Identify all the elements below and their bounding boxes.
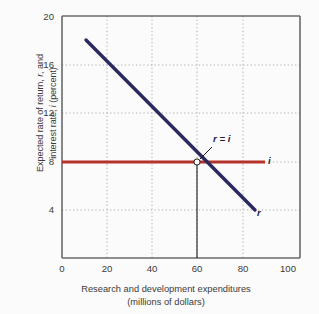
equilibrium-label: r = i <box>213 133 230 144</box>
x-axis-title: Research and development expenditures (m… <box>26 283 306 309</box>
equilibrium-marker <box>194 159 200 165</box>
equilibrium-leader-line <box>200 147 212 159</box>
curve-label-r: r <box>257 207 261 218</box>
x-axis-title-line2: (millions of dollars) <box>26 296 306 309</box>
plot-area <box>0 0 319 314</box>
chart-figure: Expected rate of return, r, and interest… <box>0 0 319 314</box>
curve-label-i: i <box>268 155 271 166</box>
x-axis-title-line1: Research and development expenditures <box>26 283 306 296</box>
